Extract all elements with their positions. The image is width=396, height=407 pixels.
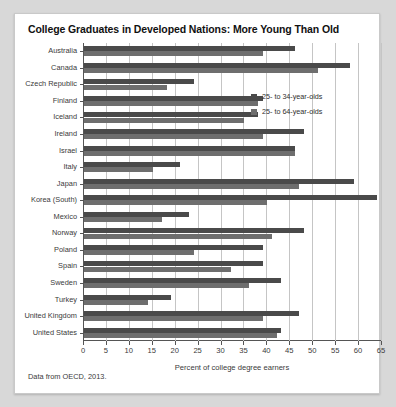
bar-all bbox=[84, 333, 277, 338]
y-tick-label: Ireland bbox=[54, 129, 77, 138]
legend-label-all: 25- to 64-year-olds bbox=[262, 107, 322, 116]
bar-row: Iceland bbox=[84, 109, 382, 126]
bar-all bbox=[84, 118, 244, 123]
bar-all bbox=[84, 167, 153, 172]
x-tick-label: 5 bbox=[104, 346, 108, 355]
x-tick bbox=[358, 341, 359, 345]
legend-item-young: 25- to 34-year-olds bbox=[251, 92, 322, 101]
x-tick bbox=[106, 341, 107, 345]
bar-all bbox=[84, 85, 167, 90]
x-tick-label: 65 bbox=[377, 346, 385, 355]
bar-all bbox=[84, 184, 299, 189]
x-tick bbox=[175, 341, 176, 345]
x-axis-title: Percent of college degree earners bbox=[83, 363, 381, 372]
bar-row: Turkey bbox=[84, 291, 382, 308]
y-tick-label: Mexico bbox=[54, 212, 77, 221]
bar-row: Ireland bbox=[84, 126, 382, 143]
bar-row: Australia bbox=[84, 43, 382, 60]
x-tick-label: 40 bbox=[262, 346, 270, 355]
x-tick bbox=[152, 341, 153, 345]
bar-row: Canada bbox=[84, 60, 382, 77]
x-tick bbox=[221, 341, 222, 345]
bar-row: Finland bbox=[84, 93, 382, 110]
bar-row: Israel bbox=[84, 142, 382, 159]
y-tick-label: Italy bbox=[63, 162, 77, 171]
bar-row: Spain bbox=[84, 258, 382, 275]
bar-all bbox=[84, 101, 258, 106]
x-tick-label: 35 bbox=[239, 346, 247, 355]
bar-all bbox=[84, 217, 162, 222]
bar-row: United Kingdom bbox=[84, 308, 382, 325]
chart-card: College Graduates in Developed Nations: … bbox=[14, 13, 380, 394]
bar-row: United States bbox=[84, 324, 382, 341]
bar-all bbox=[84, 51, 263, 56]
y-tick-label: Finland bbox=[53, 96, 77, 105]
bar-row: Czech Republic bbox=[84, 76, 382, 93]
x-tick bbox=[312, 341, 313, 345]
legend-swatch-young-icon bbox=[251, 94, 257, 100]
y-tick-label: Czech Republic bbox=[25, 79, 77, 88]
y-tick-label: Australia bbox=[48, 46, 77, 55]
x-tick-label: 50 bbox=[308, 346, 316, 355]
x-tick-label: 10 bbox=[125, 346, 133, 355]
bar-all bbox=[84, 134, 263, 139]
y-tick-label: Poland bbox=[54, 245, 77, 254]
x-tick bbox=[243, 341, 244, 345]
y-tick-label: Spain bbox=[58, 261, 77, 270]
bar-row: Mexico bbox=[84, 209, 382, 226]
x-tick-label: 15 bbox=[148, 346, 156, 355]
bar-row: Japan bbox=[84, 175, 382, 192]
y-tick-label: Turkey bbox=[55, 295, 77, 304]
y-tick-label: United States bbox=[33, 328, 77, 337]
bar-row: Norway bbox=[84, 225, 382, 242]
x-tick-label: 60 bbox=[354, 346, 362, 355]
x-tick-label: 30 bbox=[216, 346, 224, 355]
bar-all bbox=[84, 68, 318, 73]
bar-all bbox=[84, 151, 295, 156]
legend-swatch-all-icon bbox=[251, 109, 257, 115]
chart-legend: 25- to 34-year-olds 25- to 64-year-olds bbox=[251, 92, 322, 122]
x-tick-label: 55 bbox=[331, 346, 339, 355]
bar-all bbox=[84, 267, 231, 272]
bar-all bbox=[84, 200, 267, 205]
bar-all bbox=[84, 250, 194, 255]
legend-label-young: 25- to 34-year-olds bbox=[262, 92, 322, 101]
source-note: Data from OECD, 2013. bbox=[28, 372, 106, 381]
bar-row: Poland bbox=[84, 242, 382, 259]
y-tick-label: Israel bbox=[59, 146, 77, 155]
bar-row: Italy bbox=[84, 159, 382, 176]
x-tick-label: 20 bbox=[170, 346, 178, 355]
y-tick-label: Iceland bbox=[53, 112, 77, 121]
x-tick bbox=[129, 341, 130, 345]
x-tick-label: 25 bbox=[193, 346, 201, 355]
x-tick bbox=[381, 341, 382, 345]
legend-item-all: 25- to 64-year-olds bbox=[251, 107, 322, 116]
bar-all bbox=[84, 316, 263, 321]
y-tick-label: United Kingdom bbox=[24, 311, 77, 320]
x-tick bbox=[289, 341, 290, 345]
chart-title: College Graduates in Developed Nations: … bbox=[28, 23, 339, 35]
x-tick bbox=[83, 341, 84, 345]
y-tick-label: Norway bbox=[52, 228, 77, 237]
bar-all bbox=[84, 234, 272, 239]
x-tick bbox=[335, 341, 336, 345]
y-tick-label: Canada bbox=[51, 63, 77, 72]
y-tick-label: Japan bbox=[57, 179, 77, 188]
x-tick-label: 0 bbox=[81, 346, 85, 355]
bar-row: Sweden bbox=[84, 275, 382, 292]
bar-all bbox=[84, 300, 148, 305]
y-tick-label: Sweden bbox=[50, 278, 77, 287]
bar-row: Korea (South) bbox=[84, 192, 382, 209]
plot-area: 05101520253035404550556065 AustraliaCana… bbox=[83, 43, 381, 341]
x-tick bbox=[198, 341, 199, 345]
bar-all bbox=[84, 283, 249, 288]
y-tick-label: Korea (South) bbox=[31, 195, 77, 204]
x-tick bbox=[266, 341, 267, 345]
x-tick-label: 45 bbox=[285, 346, 293, 355]
